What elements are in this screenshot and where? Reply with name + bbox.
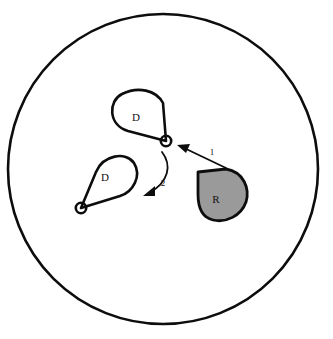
diagram-svg: D D R 1 2	[0, 0, 333, 339]
arrow-1-label: 1	[210, 147, 215, 157]
arrow-2-label: 2	[161, 178, 166, 188]
teardrop-upper-label: D	[132, 111, 140, 123]
teardrop-lower-label: D	[101, 171, 109, 183]
figure-background	[0, 0, 333, 339]
figure-canvas: D D R 1 2	[0, 0, 333, 339]
region-filled-label: R	[212, 193, 220, 205]
region-filled-shape	[198, 169, 247, 221]
